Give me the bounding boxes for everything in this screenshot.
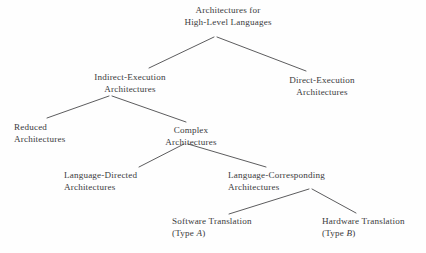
node-hardware-translation-type-suffix: )	[352, 228, 355, 238]
node-language-directed-line2: Architectures	[64, 182, 137, 194]
node-software-translation-line1: Software Translation	[172, 216, 252, 228]
node-complex-line2: Architectures	[165, 137, 216, 149]
node-hardware-translation-line1: Hardware Translation	[322, 216, 405, 228]
node-indirect-execution: Indirect-Execution Architectures	[94, 72, 165, 95]
node-reduced-line1: Reduced	[14, 122, 65, 134]
node-hardware-translation-line2: (Type B)	[322, 228, 405, 240]
node-hardware-translation-type-prefix: (Type	[322, 228, 346, 238]
node-root: Architectures for High-Level Languages	[184, 5, 271, 28]
node-software-translation-line2: (Type A)	[172, 228, 252, 240]
node-language-corresponding: Language-Corresponding Architectures	[228, 170, 325, 193]
tree-diagram: Architectures for High-Level Languages I…	[0, 0, 426, 253]
edge-root-to-indirect	[149, 37, 214, 68]
node-direct-execution: Direct-Execution Architectures	[289, 75, 355, 98]
node-language-corresponding-line1: Language-Corresponding	[228, 170, 325, 182]
node-language-directed: Language-Directed Architectures	[64, 170, 137, 193]
edge-indirect-to-complex	[112, 96, 186, 122]
node-direct-execution-line2: Architectures	[289, 87, 355, 99]
node-direct-execution-line1: Direct-Execution	[289, 75, 355, 87]
node-complex: Complex Architectures	[165, 125, 216, 148]
edge-root-to-direct	[217, 37, 306, 71]
node-software-translation-type-prefix: (Type	[172, 228, 196, 238]
node-software-translation-type-suffix: )	[202, 228, 205, 238]
node-reduced: Reduced Architectures	[14, 122, 65, 145]
node-reduced-line2: Architectures	[14, 134, 65, 146]
edge-indirect-to-reduced	[47, 96, 109, 118]
node-software-translation: Software Translation (Type A)	[172, 216, 252, 239]
node-root-line2: High-Level Languages	[184, 17, 271, 29]
node-language-directed-line1: Language-Directed	[64, 170, 137, 182]
node-indirect-execution-line2: Architectures	[94, 84, 165, 96]
node-indirect-execution-line1: Indirect-Execution	[94, 72, 165, 84]
node-complex-line1: Complex	[165, 125, 216, 137]
node-hardware-translation: Hardware Translation (Type B)	[322, 216, 405, 239]
node-language-corresponding-line2: Architectures	[228, 182, 325, 194]
node-root-line1: Architectures for	[184, 5, 271, 17]
